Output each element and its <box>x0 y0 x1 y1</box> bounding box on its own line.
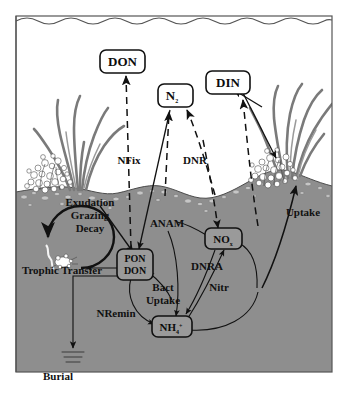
pool-pon-don[interactable]: PON DON <box>117 249 153 280</box>
label-uptake: Uptake <box>286 206 320 218</box>
figure-canvas: DON N2 DIN PON DON NOx NH4+ NFix DNR Exu… <box>0 0 348 398</box>
pool-n2[interactable]: N2 <box>158 84 193 107</box>
label-trophic-transfer: Trophic Transfer <box>22 264 102 276</box>
label-dnr: DNR <box>183 154 208 166</box>
label-nitr: Nitr <box>209 281 229 293</box>
label-nfix: NFix <box>117 154 141 166</box>
label-anam: ANAM <box>150 217 185 229</box>
label-dnra: DNRA <box>191 260 223 272</box>
nitrogen-cycle-diagram: DON N2 DIN PON DON NOx NH4+ NFix DNR Exu… <box>0 0 348 398</box>
pool-nh4[interactable]: NH4+ <box>152 316 192 337</box>
label-decay: Decay <box>76 222 105 234</box>
label-bact: Bact <box>152 281 174 293</box>
label-bact-uptake: Uptake <box>146 294 180 306</box>
pool-din[interactable]: DIN <box>206 71 250 94</box>
pool-din-label: DIN <box>216 75 240 90</box>
label-grazing: Grazing <box>71 209 110 221</box>
label-nremin: NRemin <box>96 307 135 319</box>
pool-don-label: DON <box>108 54 138 69</box>
pool-don-sed-label: DON <box>124 265 147 276</box>
pool-nox[interactable]: NOx <box>205 228 242 249</box>
pool-don-water[interactable]: DON <box>100 50 145 73</box>
pool-pon-label: PON <box>124 253 146 264</box>
label-exudation: Exudation <box>66 196 115 208</box>
